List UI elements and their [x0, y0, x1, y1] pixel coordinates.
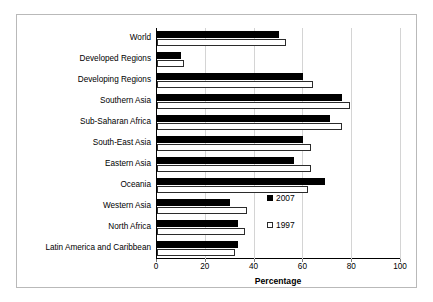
bar-1997 [157, 39, 286, 46]
category-label: Developed Regions [80, 55, 151, 63]
bar-1997 [157, 60, 184, 67]
bar-2007 [157, 115, 330, 122]
bar-2007 [157, 220, 238, 227]
x-tick-label-20: 20 [200, 262, 209, 271]
bar-1997 [157, 249, 235, 256]
category-label: Southern Asia [100, 97, 151, 105]
x-tick-label-40: 40 [249, 262, 258, 271]
filled-square-icon [267, 195, 273, 201]
bar-2007 [157, 157, 294, 164]
category-label: Latin America and Caribbean [45, 244, 151, 252]
bar-2007 [157, 178, 325, 185]
category-label: Oceania [121, 181, 152, 189]
bar-2007 [157, 31, 279, 38]
hollow-square-icon [267, 222, 273, 228]
category-label: Sub-Saharan Africa [80, 118, 151, 126]
bar-1997 [157, 207, 247, 214]
plot-area: WorldDeveloped RegionsDeveloping Regions… [156, 28, 400, 259]
bar-2007 [157, 241, 238, 248]
x-tick-label-100: 100 [393, 262, 407, 271]
bar-2007 [157, 136, 303, 143]
category-label: World [130, 34, 151, 42]
bar-group: Southern Asia [156, 91, 400, 112]
bar-1997 [157, 81, 313, 88]
bar-2007 [157, 73, 303, 80]
category-label: North Africa [108, 223, 151, 231]
chart-figure: WorldDeveloped RegionsDeveloping Regions… [16, 14, 417, 288]
bar-group: Sub-Saharan Africa [156, 112, 400, 133]
legend-label: 2007 [276, 193, 295, 203]
x-tick-label-60: 60 [298, 262, 307, 271]
x-axis-label: Percentage [156, 276, 400, 286]
legend-entry-1997: 1997 [267, 220, 295, 230]
category-label: Developing Regions [78, 76, 151, 84]
bar-1997 [157, 123, 342, 130]
bar-group: South-East Asia [156, 133, 400, 154]
bar-2007 [157, 52, 181, 59]
bar-group: Developing Regions [156, 70, 400, 91]
bar-group: Eastern Asia [156, 154, 400, 175]
legend-label: 1997 [276, 220, 295, 230]
chart-legend: 20071997 [267, 193, 295, 247]
bar-group: World [156, 28, 400, 49]
x-tick-label-80: 80 [347, 262, 356, 271]
x-tick-label-0: 0 [154, 262, 159, 271]
gridline-100 [400, 28, 401, 259]
bar-2007 [157, 199, 230, 206]
bar-1997 [157, 228, 245, 235]
legend-entry-2007: 2007 [267, 193, 295, 203]
bar-1997 [157, 165, 311, 172]
bar-1997 [157, 102, 350, 109]
category-label: Eastern Asia [105, 160, 151, 168]
category-label: South-East Asia [93, 139, 151, 147]
category-label: Western Asia [103, 202, 151, 210]
bar-1997 [157, 144, 311, 151]
bar-2007 [157, 94, 342, 101]
bar-group: Developed Regions [156, 49, 400, 70]
